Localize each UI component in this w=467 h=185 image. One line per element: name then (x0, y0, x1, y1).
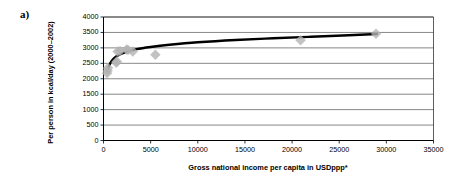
scatter-point (371, 29, 381, 39)
gridlines (104, 17, 434, 141)
trend-curve (107, 34, 377, 71)
trend-line (107, 34, 377, 71)
chart-canvas (0, 0, 467, 185)
scatter-point (150, 50, 160, 60)
axis-ticks (101, 17, 434, 144)
